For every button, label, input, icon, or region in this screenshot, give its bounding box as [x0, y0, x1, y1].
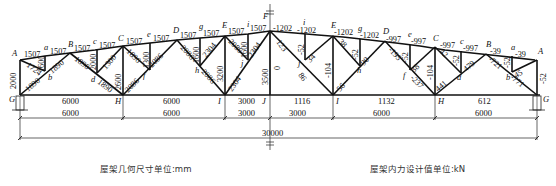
len-C-e: 1507 [126, 37, 142, 46]
force-e-C: -997 [411, 37, 426, 46]
force-j-E: 34 [305, 52, 317, 64]
node-h-left: h [195, 65, 199, 75]
node-j-left: j [240, 58, 244, 68]
force-E-h: 38 [337, 37, 349, 49]
force-B-b: -721 [487, 55, 504, 72]
len-i-F: 1507 [250, 24, 266, 33]
dim-total: 30000 [262, 128, 283, 138]
node-I-left: I [217, 96, 222, 106]
force-D-e: -997 [386, 35, 401, 44]
len-a-B: 1507 [50, 47, 66, 56]
node-A-right: A [537, 46, 544, 56]
truss-drawing: A a B c C e D g E i F i E g D e C c B a … [0, 0, 556, 186]
force-e-vert: -52 [401, 52, 410, 63]
len-g-h: 2304 [201, 41, 218, 59]
dim-2: 6000 [163, 108, 180, 118]
node-I-right: I [335, 96, 340, 106]
len-b-B: 1890 [48, 58, 66, 75]
node-C-left: C [118, 33, 124, 43]
len-CH: 2600 [114, 74, 123, 90]
force-bottom-HG: 612 [478, 96, 491, 106]
force-F-i: -1202 [273, 24, 292, 33]
node-H-right: H [437, 96, 445, 106]
len-e-D: 1507 [153, 34, 169, 43]
len-d-H: 1890 [96, 77, 114, 94]
node-e-left: e [147, 29, 151, 39]
node-G-right: G [543, 94, 549, 104]
force-f-H: -237 [409, 73, 426, 90]
node-G-left: G [9, 94, 15, 104]
node-J: J [262, 96, 267, 106]
force-F-j: 123 [274, 38, 288, 53]
len-I-j: 2304 [226, 75, 243, 94]
len-B-c: 1507 [74, 44, 90, 53]
node-a-left: a [44, 42, 48, 52]
force-a-A: -39 [515, 50, 526, 59]
len-c-vert: 2000 [89, 54, 98, 70]
node-c-left: c [93, 36, 97, 46]
node-B-left: B [68, 39, 73, 49]
len-EI: 3200 [216, 66, 225, 82]
force-a-vert: -52 [503, 57, 512, 68]
len-c-d: 1300 [101, 53, 118, 71]
node-C-right: C [433, 33, 439, 43]
caption-geometry: 屋架几何尺寸单位:mm [100, 164, 191, 174]
len-C-f: 1890 [125, 47, 143, 65]
force-c-B: -997 [463, 44, 478, 53]
dim-4: 3000 [289, 108, 306, 118]
caption-forces: 屋架内力设计值单位:kN [370, 164, 465, 174]
force-bottom-JI: 1116 [294, 96, 310, 106]
node-f-right: f [403, 70, 407, 80]
force-g-vert: -52 [351, 49, 360, 60]
force-g-D: -1202 [360, 31, 379, 40]
force-i-vert: -52 [297, 44, 306, 55]
dim-5: 6000 [373, 108, 390, 118]
node-d-left: d [91, 74, 96, 84]
node-F: F [262, 11, 269, 21]
force-CH: -104 [426, 65, 435, 80]
dim-6: 6000 [475, 108, 492, 118]
force-j-I: 86 [296, 71, 308, 83]
len-bottom-HI: 6000 [163, 96, 180, 106]
len-AG: 2000 [9, 73, 18, 89]
len-g-E: 1507 [203, 29, 219, 38]
len-D-g: 1507 [180, 31, 196, 40]
force-AG: -52 [539, 73, 548, 84]
node-E-left: E [221, 20, 228, 30]
force-EI: -104 [324, 63, 333, 78]
len-bottom-IJ: 3000 [238, 96, 255, 106]
force-c-vert: -52 [452, 55, 461, 66]
dim-1: 6000 [62, 108, 79, 118]
force-bottom-IH: 1132 [378, 96, 395, 106]
force-i-E: -1202 [297, 26, 316, 35]
force-FJ: 0 [273, 66, 282, 70]
dim-3: 3000 [238, 108, 255, 118]
len-E-i: 1507 [228, 27, 244, 36]
len-c-C: 1507 [99, 41, 115, 50]
node-h-right: h [357, 65, 361, 75]
force-E-g: -1202 [334, 28, 353, 37]
len-FJ: 3500 [261, 69, 270, 85]
node-H-left: H [114, 96, 122, 106]
node-D-left: D [172, 25, 180, 35]
len-bottom-GH: 6000 [62, 96, 79, 106]
node-A-left: A [11, 48, 18, 58]
